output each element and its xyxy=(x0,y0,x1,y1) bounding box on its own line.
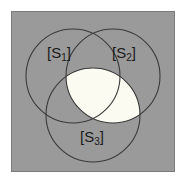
venn-diagram-figure: [S1] [S2] [S3] xyxy=(0,0,188,186)
set-label-s1: [S1] xyxy=(47,44,71,63)
venn-diagram-canvas: [S1] [S2] [S3] xyxy=(0,0,188,186)
set-label-s2: [S2] xyxy=(112,44,136,63)
set-label-s3: [S3] xyxy=(80,128,104,147)
